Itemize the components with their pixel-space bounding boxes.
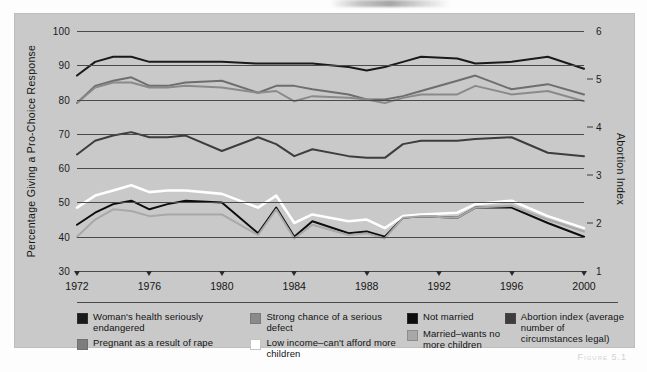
y-axis-tick-label: 100 bbox=[53, 26, 70, 37]
legend-swatch-icon bbox=[250, 339, 261, 350]
figure-caption: Figure 5.1 bbox=[577, 352, 627, 362]
x-axis-tick-label: 1992 bbox=[427, 280, 450, 292]
legend-item[interactable]: Abortion index (average number of circum… bbox=[505, 311, 626, 344]
plot-area: 3040506070809010012345619721976198019841… bbox=[77, 31, 584, 271]
legend-item[interactable]: Strong chance of a serious defect bbox=[250, 311, 407, 333]
legend-column: Woman's health seriously endangeredPregn… bbox=[77, 311, 250, 359]
x-axis-tick bbox=[146, 271, 152, 276]
gridline-y bbox=[77, 31, 584, 32]
x-axis-tick bbox=[219, 271, 225, 276]
x-axis-tick bbox=[509, 271, 515, 276]
legend-item[interactable]: Married–wants no more children bbox=[407, 328, 505, 350]
y2-axis-tick-label: 6 bbox=[596, 26, 602, 37]
chart-figure: Percentage Giving a Pro-Choice Response … bbox=[14, 13, 635, 348]
x-axis-tick bbox=[436, 271, 442, 276]
y2-axis-tick-label: 2 bbox=[596, 218, 602, 229]
x-axis-tick-label: 1984 bbox=[283, 280, 306, 292]
series-line bbox=[77, 206, 584, 239]
legend-divider bbox=[77, 302, 618, 303]
y-axis-title-right-text: Abortion Index bbox=[615, 133, 627, 205]
legend-item[interactable]: Not married bbox=[407, 311, 505, 324]
legend-swatch-icon bbox=[505, 313, 516, 324]
y-axis-title-right: Abortion Index bbox=[614, 109, 628, 229]
y-axis-tick-label: 80 bbox=[58, 94, 70, 105]
x-axis-tick bbox=[291, 271, 297, 276]
y-axis-tick-label: 30 bbox=[58, 266, 70, 277]
legend-swatch-icon bbox=[77, 313, 88, 324]
legend-swatch-icon bbox=[250, 313, 261, 324]
y-axis-title-left: Percentage Giving a Pro-Choice Response bbox=[24, 31, 38, 271]
y-axis-tick-label: 50 bbox=[58, 197, 70, 208]
x-axis-tick-label: 2000 bbox=[572, 280, 595, 292]
x-axis-tick bbox=[581, 271, 587, 276]
y-axis-title-left-text: Percentage Giving a Pro-Choice Response bbox=[25, 45, 37, 257]
y2-axis-tick-label: 4 bbox=[596, 122, 602, 133]
y2-axis-tick bbox=[587, 175, 593, 176]
y2-axis-tick-label: 5 bbox=[596, 74, 602, 85]
gridline-y bbox=[77, 100, 584, 101]
legend-item[interactable]: Pregnant as a result of rape bbox=[77, 337, 250, 350]
legend-swatch-icon bbox=[407, 313, 418, 324]
legend-item-label: Pregnant as a result of rape bbox=[93, 337, 213, 348]
gridline-y bbox=[77, 202, 584, 203]
series-lines bbox=[77, 31, 584, 271]
figure-page: Percentage Giving a Pro-Choice Response … bbox=[0, 0, 647, 372]
y-axis-tick-label: 70 bbox=[58, 128, 70, 139]
x-axis-tick-label: 1996 bbox=[500, 280, 523, 292]
y2-axis-tick bbox=[587, 223, 593, 224]
x-axis-tick bbox=[74, 271, 80, 276]
y-axis-tick-label: 60 bbox=[58, 163, 70, 174]
legend-item-label: Woman's health seriously endangered bbox=[93, 311, 250, 333]
x-axis-tick bbox=[364, 271, 370, 276]
gridline-y bbox=[77, 134, 584, 135]
gridline-y bbox=[77, 237, 584, 238]
x-axis-tick-label: 1980 bbox=[210, 280, 233, 292]
x-axis-tick-label: 1988 bbox=[355, 280, 378, 292]
y-axis-tick-label: 40 bbox=[58, 231, 70, 242]
y2-axis-tick-label: 3 bbox=[596, 170, 602, 181]
legend-item-label: Strong chance of a serious defect bbox=[266, 311, 407, 333]
legend-column: Strong chance of a serious defectLow inc… bbox=[250, 311, 407, 359]
legend-item-label: Not married bbox=[423, 311, 474, 322]
legend-column: Not marriedMarried–wants no more childre… bbox=[407, 311, 505, 359]
y-axis-tick-label: 90 bbox=[58, 60, 70, 71]
gridline-y bbox=[77, 65, 584, 66]
y2-axis-tick bbox=[587, 127, 593, 128]
x-axis-tick-label: 1972 bbox=[65, 280, 88, 292]
chart-legend: Woman's health seriously endangeredPregn… bbox=[77, 311, 626, 359]
gridline-y bbox=[77, 168, 584, 169]
legend-item-label: Married–wants no more children bbox=[423, 328, 505, 350]
x-axis-tick-label: 1976 bbox=[138, 280, 161, 292]
scan-artifact-top bbox=[330, 0, 450, 7]
y2-axis-tick-label: 1 bbox=[596, 266, 602, 277]
legend-swatch-icon bbox=[407, 330, 418, 341]
legend-item[interactable]: Low income–can't afford more children bbox=[250, 337, 407, 359]
legend-item-label: Low income–can't afford more children bbox=[266, 337, 407, 359]
y2-axis-tick bbox=[587, 79, 593, 80]
legend-swatch-icon bbox=[77, 339, 88, 350]
legend-item[interactable]: Woman's health seriously endangered bbox=[77, 311, 250, 333]
series-line bbox=[77, 132, 584, 158]
legend-item-label: Abortion index (average number of circum… bbox=[521, 311, 626, 344]
